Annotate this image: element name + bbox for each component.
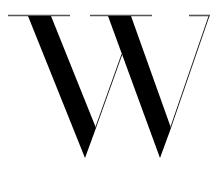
left-thin-stroke bbox=[96, 54, 123, 128]
logo-canvas: W bbox=[0, 0, 218, 170]
left-thick-stroke bbox=[28, 16, 96, 158]
middle-thick-stroke bbox=[108, 16, 171, 158]
w-glyph-icon bbox=[0, 0, 218, 170]
right-thin-stroke bbox=[171, 16, 210, 128]
